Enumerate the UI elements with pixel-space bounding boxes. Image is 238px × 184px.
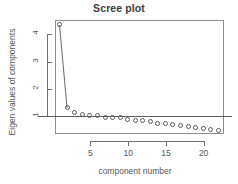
data-point (216, 128, 221, 133)
y-axis-line (47, 34, 48, 116)
y-axis-tick-label: 1 (31, 104, 40, 126)
data-point (133, 118, 138, 123)
data-point (103, 115, 108, 120)
scree-plot-figure: Scree plot Eigen values of components 12… (0, 0, 238, 184)
x-axis-label: component number (40, 166, 230, 176)
x-axis-tick (166, 141, 167, 146)
x-axis-tick-label: 5 (78, 148, 102, 158)
data-point (155, 121, 160, 126)
y-axis-tick-label: 3 (31, 49, 40, 71)
x-axis-line (90, 141, 203, 142)
data-point (125, 117, 130, 122)
data-point (80, 112, 85, 117)
x-axis-tick (128, 141, 129, 146)
y-axis-label: Eigen values of components (7, 22, 17, 142)
x-axis-tick-label: 15 (154, 148, 178, 158)
x-axis-tick-label: 20 (192, 148, 216, 158)
y-axis-tick (47, 34, 52, 35)
y-axis-tick-label: 2 (31, 77, 40, 99)
data-point (201, 126, 206, 131)
y-axis-tick (47, 62, 52, 63)
y-axis-tick-label: 4 (31, 22, 40, 44)
y-axis-tick (47, 89, 52, 90)
x-axis-tick (90, 141, 91, 146)
x-axis-tick (204, 141, 205, 146)
chart-title: Scree plot (0, 2, 238, 14)
x-axis-tick-label: 10 (116, 148, 140, 158)
